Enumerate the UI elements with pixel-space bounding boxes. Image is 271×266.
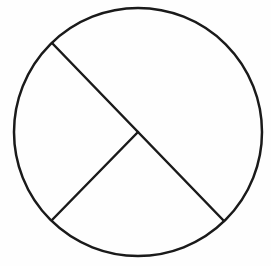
circle-figure (0, 0, 271, 266)
radius-line (52, 132, 138, 220)
circle-diagram (0, 0, 271, 266)
